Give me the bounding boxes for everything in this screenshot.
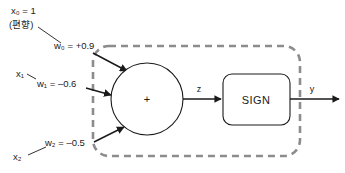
arrow-w0-to-sum [93, 53, 127, 71]
input-x0-note-bias: (편향) [9, 19, 33, 30]
signal-z-label: z [197, 84, 202, 94]
input-x2-label: x₂ [13, 151, 22, 162]
input-x0-label: x₀ = 1 [11, 5, 36, 16]
weight-w1-label: w₁ = –0.6 [36, 78, 76, 89]
summation-plus-symbol: + [144, 93, 150, 105]
leader-line-x1 [27, 74, 36, 79]
leader-line-x2 [28, 147, 46, 155]
input-x1-label: x₁ [16, 68, 24, 79]
signal-y-label: y [310, 84, 315, 94]
activation-function-label: SIGN [242, 94, 271, 106]
diagram-canvas: x₀ = 1 (편향) w₀ = +0.9 x₁ w₁ = –0.6 x₂ w₂… [0, 0, 345, 173]
arrow-w2-to-sum [94, 127, 124, 142]
arrow-w1-to-sum [86, 88, 111, 95]
perceptron-diagram: x₀ = 1 (편향) w₀ = +0.9 x₁ w₁ = –0.6 x₂ w₂… [0, 0, 345, 173]
weight-w2-label: w₂ = –0.5 [44, 137, 85, 148]
weight-w0-label: w₀ = +0.9 [53, 40, 94, 51]
